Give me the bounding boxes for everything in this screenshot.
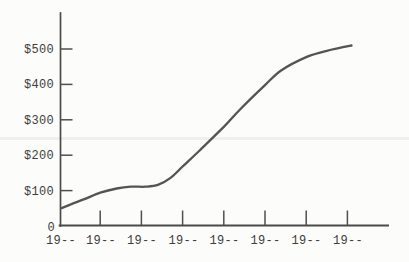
y-origin-label: 0 (47, 221, 55, 235)
x-tick-label-8: 19-- (333, 234, 363, 248)
x-tick-label-6: 19-- (250, 234, 280, 248)
x-tick-label-7: 19-- (291, 234, 321, 248)
line-chart-figure: $500 $400 $300 $200 $100 0 19-- 19-- 19-… (0, 0, 409, 262)
y-tick-label-500: $500 (24, 43, 54, 57)
x-tick-label-5: 19-- (209, 234, 239, 248)
y-tick-label-200: $200 (24, 149, 54, 163)
data-curve (61, 46, 351, 209)
x-tick-label-2: 19-- (86, 234, 116, 248)
x-tick-label-3: 19-- (127, 234, 157, 248)
x-tick-label-4: 19-- (168, 234, 198, 248)
x-tick-label-1: 19-- (46, 234, 76, 248)
chart-canvas: $500 $400 $300 $200 $100 0 19-- 19-- 19-… (0, 0, 409, 262)
y-tick-label-100: $100 (24, 185, 54, 199)
y-tick-label-300: $300 (24, 114, 54, 128)
y-tick-label-400: $400 (24, 78, 54, 92)
